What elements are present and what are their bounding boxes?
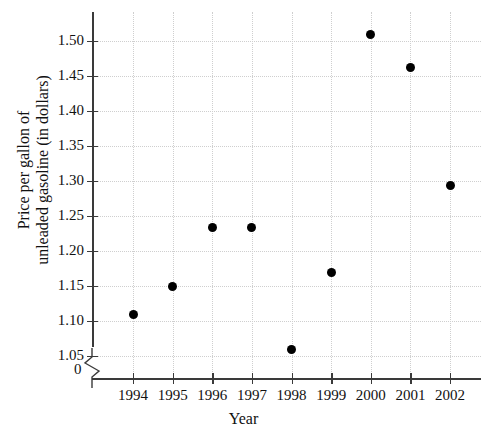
gridline-horizontal xyxy=(92,146,481,147)
gridline-vertical xyxy=(371,12,372,378)
y-axis-tick xyxy=(87,111,98,112)
y-axis-title: Price per gallon of unleaded gasoline (i… xyxy=(14,20,52,320)
y-axis-title-line1: Price per gallon of xyxy=(14,20,33,320)
data-point xyxy=(446,181,455,190)
x-axis-tick xyxy=(410,373,411,384)
y-axis-tick xyxy=(87,251,98,252)
data-point xyxy=(287,345,296,354)
scatter-plot-figure: 0 1.051.101.151.201.251.301.351.401.451.… xyxy=(0,0,487,431)
y-axis-tick xyxy=(87,356,98,357)
gridline-horizontal xyxy=(92,41,481,42)
x-axis-line xyxy=(92,378,481,380)
y-axis-tick xyxy=(87,181,98,182)
data-point xyxy=(406,63,415,72)
x-axis-tick xyxy=(133,373,134,384)
gridline-horizontal xyxy=(92,216,481,217)
y-axis-tick xyxy=(87,286,98,287)
gridline-vertical xyxy=(252,12,253,378)
x-axis-tick xyxy=(292,373,293,384)
gridline-vertical xyxy=(450,12,451,378)
y-axis-line xyxy=(92,12,94,347)
x-axis-tick xyxy=(331,373,332,384)
x-axis-tick xyxy=(173,373,174,384)
x-axis-tick xyxy=(212,373,213,384)
y-axis-tick xyxy=(87,216,98,217)
gridline-horizontal xyxy=(92,181,481,182)
gridline-vertical xyxy=(133,12,134,378)
gridline-vertical xyxy=(173,12,174,378)
gridline-vertical xyxy=(212,12,213,378)
y-axis-tick-label: 1.05 xyxy=(30,348,84,363)
data-point xyxy=(366,30,375,39)
gridline-horizontal xyxy=(92,251,481,252)
gridline-horizontal xyxy=(92,76,481,77)
y-axis-tick xyxy=(87,41,98,42)
gridline-horizontal xyxy=(92,286,481,287)
data-point xyxy=(327,268,336,277)
x-axis-title: Year xyxy=(0,410,487,428)
y-axis-zero-label: 0 xyxy=(74,362,82,377)
x-axis-tick xyxy=(252,373,253,384)
x-axis-tick-label: 2002 xyxy=(425,388,475,403)
y-axis-tick xyxy=(87,321,98,322)
gridline-horizontal xyxy=(92,321,481,322)
y-axis-tick xyxy=(87,76,98,77)
data-point xyxy=(208,223,217,232)
gridline-vertical xyxy=(331,12,332,378)
gridline-horizontal xyxy=(92,111,481,112)
axis-break-icon xyxy=(83,348,109,388)
y-axis-tick xyxy=(87,146,98,147)
x-axis-tick xyxy=(450,373,451,384)
data-point xyxy=(168,282,177,291)
data-point xyxy=(129,310,138,319)
y-axis-title-line2: unleaded gasoline (in dollars) xyxy=(33,20,52,320)
data-point xyxy=(247,223,256,232)
x-axis-tick xyxy=(371,373,372,384)
gridline-vertical xyxy=(292,12,293,378)
gridline-horizontal xyxy=(92,356,481,357)
